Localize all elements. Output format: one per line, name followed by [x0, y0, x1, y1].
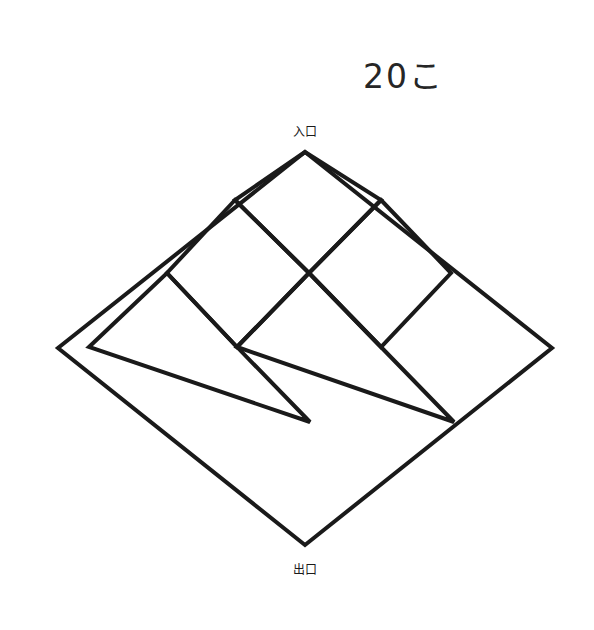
outer-diamond-boundary [58, 152, 552, 545]
diagram-canvas: 20こ 入口 出口 [0, 0, 594, 630]
entrance-label: 入口 [293, 122, 317, 139]
ball-count-label: 20こ [363, 50, 444, 98]
exit-label: 出口 [293, 560, 317, 577]
inner-diamond-cells [89, 152, 454, 422]
lattice-svg [0, 0, 594, 630]
